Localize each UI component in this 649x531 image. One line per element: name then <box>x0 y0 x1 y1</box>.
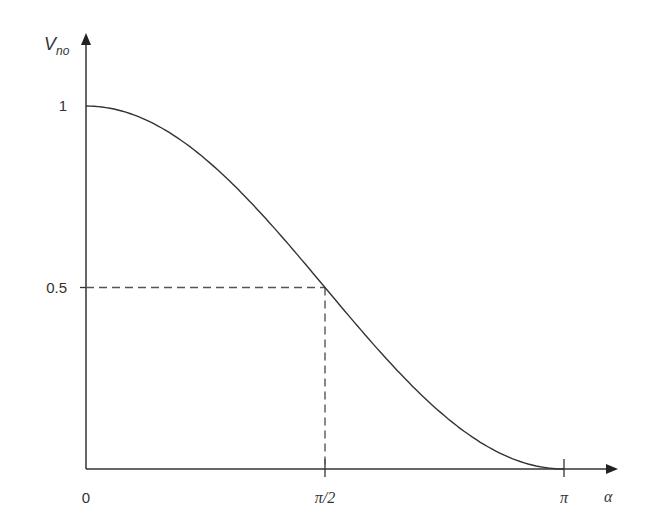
x-axis-label: α <box>604 488 613 505</box>
y-axis <box>81 33 91 469</box>
x-tick-label: π/2 <box>315 489 335 506</box>
x-axis-arrow-icon <box>606 464 618 474</box>
y-axis-arrow-icon <box>81 33 91 45</box>
tick-labels: 0π/2π10.5 <box>46 97 569 506</box>
chart: Vno α 0π/2π10.5 <box>0 0 649 531</box>
x-tick-label: 0 <box>82 489 90 506</box>
y-tick-label: 1 <box>59 97 67 114</box>
y-tick-label: 0.5 <box>46 279 67 296</box>
x-axis <box>86 464 618 474</box>
dashed-guides <box>86 288 325 470</box>
x-tick-label: π <box>560 489 569 506</box>
y-axis-label: Vno <box>44 34 70 58</box>
